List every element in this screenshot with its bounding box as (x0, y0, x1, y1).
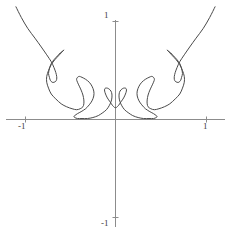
x-axis-tick-label-negative-one: -1 (18, 122, 26, 131)
y-axis-tick-label-positive-one: 1 (104, 11, 109, 20)
parametric-curve-plot: -1 1 1 -1 (0, 0, 231, 239)
x-axis-tick-label-positive-one: 1 (203, 122, 208, 131)
plot-canvas (0, 0, 231, 239)
y-axis-tick-label-negative-one: -1 (101, 219, 109, 228)
